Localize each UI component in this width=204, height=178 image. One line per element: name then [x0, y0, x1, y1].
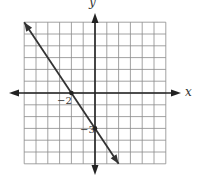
x-intercept-label: −2: [57, 95, 72, 106]
y-axis-arrow-up-icon: [92, 13, 99, 23]
y-axis-arrow-down-icon: [92, 165, 99, 175]
y-axis-label: y: [89, 0, 96, 9]
x-axis-arrow-right-icon: [171, 90, 181, 97]
x-axis-label: x: [185, 85, 192, 99]
line-arrow-icon: [111, 154, 119, 163]
y-intercept-label: −3: [80, 124, 95, 135]
x-axis-arrow-left-icon: [9, 90, 19, 97]
coordinate-plane: [0, 0, 204, 178]
line-arrow-icon: [24, 22, 32, 31]
